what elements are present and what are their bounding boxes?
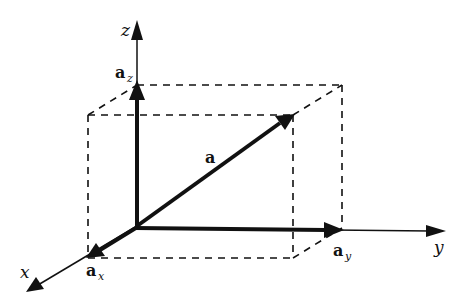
a-y-label-main: a [333,241,343,260]
vector-a-z [129,80,145,226]
a-x-label-sub: x [98,270,105,283]
z-axis-arrowhead [131,20,143,40]
a-y-label-sub: y [344,250,352,263]
a-label: a [205,148,215,167]
a-z-label-sub: z [126,72,133,85]
vector-component-diagram: z y x a a z a x a y [0,0,468,296]
a-shaft [137,123,280,226]
a-y-shaft [135,228,326,230]
a-x-label-main: a [86,261,96,280]
z-axis-label: z [120,20,131,40]
vector-a-y [135,222,344,238]
x-axis-label: x [20,262,30,282]
box-edge [293,85,342,115]
a-x-shaft [100,226,139,250]
a-z-label-main: a [115,63,125,82]
a-x-label: a x [86,261,105,283]
y-axis-label: y [433,237,444,257]
a-y-label: a y [333,241,352,263]
y-axis-arrowhead [426,225,446,237]
a-z-label: a z [115,63,133,85]
vector-a [137,114,295,226]
vector-a-x [86,226,139,258]
a-y-arrowhead [324,222,344,238]
